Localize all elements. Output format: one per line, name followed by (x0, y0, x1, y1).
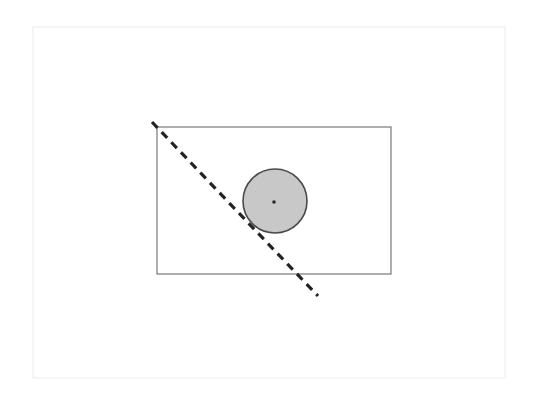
circle-center-dot (272, 200, 276, 204)
figure-svg (0, 0, 536, 397)
figure-canvas (0, 0, 536, 397)
